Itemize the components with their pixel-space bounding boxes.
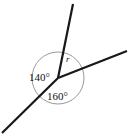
diagram-background — [0, 0, 128, 140]
angle-label-140: 140° — [29, 71, 50, 83]
angle-label-160: 160° — [47, 90, 68, 102]
angle-label-r: r — [66, 54, 70, 64]
angle-diagram-svg: 140° 160° r — [0, 0, 128, 140]
angle-diagram-canvas: 140° 160° r — [0, 0, 128, 140]
